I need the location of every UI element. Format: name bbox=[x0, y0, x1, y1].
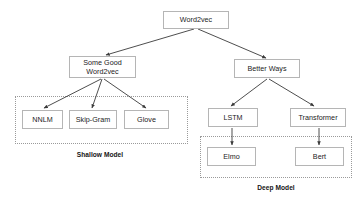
node-bert[interactable]: Bert bbox=[295, 147, 344, 166]
node-elmo[interactable]: Elmo bbox=[207, 147, 256, 166]
node-better-ways[interactable]: Better Ways bbox=[234, 59, 300, 78]
node-lstm[interactable]: LSTM bbox=[208, 108, 258, 127]
node-skip-gram[interactable]: Skip-Gram bbox=[69, 110, 117, 129]
node-nnlm[interactable]: NNLM bbox=[22, 110, 63, 129]
edge-right-branch-to-transformer bbox=[269, 79, 314, 106]
diagram-canvas: Word2vec Some Good Word2vec Better Ways … bbox=[0, 0, 360, 205]
edge-root-to-left-branch bbox=[106, 29, 194, 55]
group-label-deep-model: Deep Model bbox=[221, 184, 331, 191]
group-label-shallow-model: Shallow Model bbox=[45, 151, 155, 158]
node-glove[interactable]: Glove bbox=[124, 110, 169, 129]
node-some-good-word2vec[interactable]: Some Good Word2vec bbox=[69, 56, 136, 78]
node-transformer[interactable]: Transformer bbox=[290, 108, 346, 127]
edge-root-to-right-branch bbox=[198, 29, 266, 58]
node-word2vec[interactable]: Word2vec bbox=[163, 11, 229, 29]
edge-right-branch-to-lstm bbox=[231, 79, 267, 106]
